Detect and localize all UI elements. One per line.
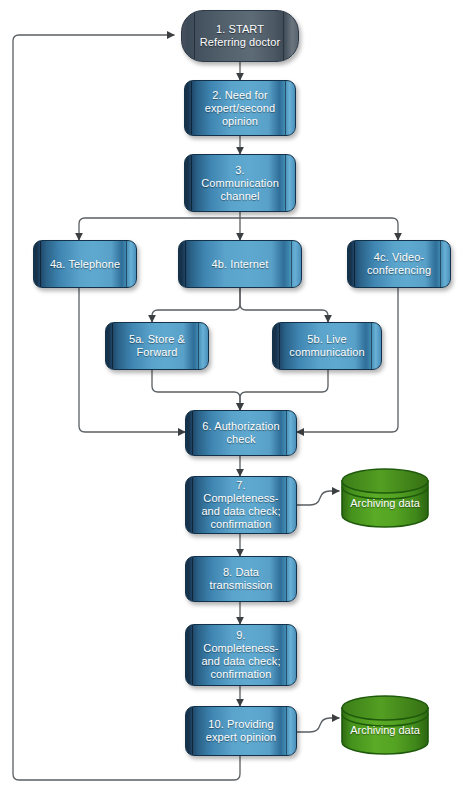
database-archive-top[interactable]: Archiving data	[342, 469, 428, 527]
node-telephone-label: 4a. Telephone	[42, 258, 128, 271]
node-communication-channel-label: 3. Communication channel	[193, 164, 287, 203]
node-internet[interactable]: 4b. Internet	[178, 240, 302, 288]
edge-channel-to-videoconf	[240, 218, 398, 240]
node-data-transmission[interactable]: 8. Data transmission	[185, 556, 297, 602]
edge-check1-to-archive-top	[296, 491, 339, 505]
node-authorization-check[interactable]: 6. Authorization check	[185, 410, 297, 456]
database-archive-top-label: Archiving data	[342, 497, 428, 510]
node-need-opinion[interactable]: 2. Need for expert/second opinion	[184, 80, 296, 136]
node-internet-label: 4b. Internet	[204, 258, 277, 271]
node-store-and-forward[interactable]: 5a. Store & Forward	[105, 322, 209, 370]
database-archive-bottom-label: Archiving data	[342, 724, 428, 737]
database-archive-bottom[interactable]: Archiving data	[342, 696, 428, 754]
edge-expert-opinion-to-archive-bottom	[296, 718, 339, 732]
node-completeness-check-1[interactable]: 7. Completeness- and data check; confirm…	[185, 476, 297, 534]
node-videoconferencing-label: 4c. Video- conferencing	[359, 251, 439, 277]
node-completeness-check-1-label: 7. Completeness- and data check; confirm…	[193, 479, 288, 531]
edge-internet-to-store-forward	[152, 288, 240, 322]
node-live-communication[interactable]: 5b. Live communication	[272, 322, 382, 370]
node-videoconferencing[interactable]: 4c. Video- conferencing	[347, 240, 451, 288]
node-telephone[interactable]: 4a. Telephone	[33, 240, 137, 288]
edge-live-comm-to-authorization	[240, 370, 328, 410]
edge-internet-to-live-comm	[240, 288, 328, 322]
node-need-opinion-label: 2. Need for expert/second opinion	[197, 89, 283, 128]
node-completeness-check-2-label: 9. Completeness- and data check; confirm…	[193, 629, 288, 681]
node-providing-expert-opinion-label: 10. Providing expert opinion	[198, 718, 285, 744]
node-start-label: 1. START Referring doctor	[192, 23, 288, 49]
node-live-communication-label: 5b. Live communication	[281, 333, 372, 359]
node-start[interactable]: 1. START Referring doctor	[181, 10, 299, 62]
edge-channel-to-telephone	[79, 218, 240, 240]
node-providing-expert-opinion[interactable]: 10. Providing expert opinion	[185, 706, 297, 756]
edge-store-forward-to-authorization	[152, 370, 240, 410]
node-communication-channel[interactable]: 3. Communication channel	[184, 154, 296, 212]
node-store-and-forward-label: 5a. Store & Forward	[121, 333, 193, 359]
node-authorization-check-label: 6. Authorization check	[194, 420, 287, 446]
node-data-transmission-label: 8. Data transmission	[202, 566, 281, 592]
node-completeness-check-2[interactable]: 9. Completeness- and data check; confirm…	[185, 624, 297, 686]
flowchart-canvas: 1. START Referring doctor 2. Need for ex…	[0, 0, 460, 802]
